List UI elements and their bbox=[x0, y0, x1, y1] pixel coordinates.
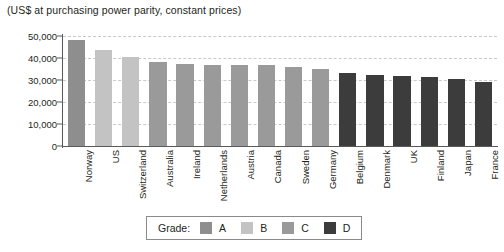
legend-label: A bbox=[219, 222, 226, 234]
legend-label: C bbox=[301, 222, 309, 234]
bar[interactable] bbox=[231, 65, 248, 146]
bar-slot bbox=[307, 36, 334, 146]
legend-entries: ABCD bbox=[200, 222, 350, 234]
bar-series bbox=[63, 36, 497, 146]
bar-slot bbox=[63, 36, 90, 146]
legend-entry-b[interactable]: B bbox=[241, 222, 267, 234]
x-label-slot: US bbox=[90, 149, 117, 207]
chart-legend: Grade: ABCD bbox=[146, 216, 362, 240]
y-axis-tick-label: 20,000 bbox=[28, 97, 57, 108]
x-label-slot: Norway bbox=[63, 149, 90, 207]
chart-figure: (US$ at purchasing power parity, constan… bbox=[0, 0, 504, 252]
bar-slot bbox=[416, 36, 443, 146]
bar-slot bbox=[253, 36, 280, 146]
x-label-slot: Switzerland bbox=[117, 149, 144, 207]
bar[interactable] bbox=[393, 76, 410, 146]
bar-slot bbox=[334, 36, 361, 146]
x-axis-line bbox=[62, 146, 498, 147]
bar-slot bbox=[226, 36, 253, 146]
x-label-slot: UK bbox=[389, 149, 416, 207]
legend-entry-d[interactable]: D bbox=[324, 222, 351, 234]
bar-slot bbox=[280, 36, 307, 146]
x-label-slot: Canada bbox=[253, 149, 280, 207]
legend-swatch-icon bbox=[282, 222, 294, 234]
x-label-slot: Belgium bbox=[334, 149, 361, 207]
bar-slot bbox=[90, 36, 117, 146]
bar-slot bbox=[470, 36, 497, 146]
x-label-slot: Germany bbox=[307, 149, 334, 207]
legend-label: B bbox=[260, 222, 267, 234]
bar[interactable] bbox=[68, 40, 85, 146]
plot-area bbox=[63, 36, 497, 146]
legend-swatch-icon bbox=[241, 222, 253, 234]
y-axis-tick-label: 40,000 bbox=[28, 53, 57, 64]
y-axis-tick-labels: 50,00040,00030,00020,00010,0000 bbox=[0, 36, 57, 146]
bar-slot bbox=[443, 36, 470, 146]
bar[interactable] bbox=[312, 69, 329, 146]
bar[interactable] bbox=[366, 75, 383, 147]
x-label-slot: Australia bbox=[144, 149, 171, 207]
bar[interactable] bbox=[448, 79, 465, 146]
bar[interactable] bbox=[258, 65, 275, 146]
bar[interactable] bbox=[95, 50, 112, 146]
bar[interactable] bbox=[421, 77, 438, 146]
x-label-slot: Ireland bbox=[172, 149, 199, 207]
chart-title: (US$ at purchasing power parity, constan… bbox=[7, 4, 241, 16]
x-label-slot: France bbox=[470, 149, 497, 207]
legend-label: D bbox=[343, 222, 351, 234]
x-label-slot: Netherlands bbox=[199, 149, 226, 207]
y-axis-tick-label: 50,000 bbox=[28, 31, 57, 42]
bar[interactable] bbox=[176, 64, 193, 147]
bar-slot bbox=[199, 36, 226, 146]
bar-slot bbox=[117, 36, 144, 146]
bar[interactable] bbox=[122, 57, 139, 146]
x-label-slot: Finland bbox=[416, 149, 443, 207]
legend-title: Grade: bbox=[158, 222, 190, 234]
x-label-slot: Japan bbox=[443, 149, 470, 207]
y-axis-tick-label: 30,000 bbox=[28, 75, 57, 86]
y-axis-tick-label: 10,000 bbox=[28, 119, 57, 130]
x-axis-category-labels: NorwayUSSwitzerlandAustraliaIrelandNethe… bbox=[63, 149, 497, 207]
x-label-slot: Denmark bbox=[361, 149, 388, 207]
bar-slot bbox=[361, 36, 388, 146]
legend-swatch-icon bbox=[200, 222, 212, 234]
bar[interactable] bbox=[475, 82, 492, 146]
legend-entry-a[interactable]: A bbox=[200, 222, 226, 234]
bar[interactable] bbox=[285, 67, 302, 146]
bar[interactable] bbox=[339, 73, 356, 146]
bar-slot bbox=[389, 36, 416, 146]
x-axis-category-label: France bbox=[489, 150, 500, 180]
bar-slot bbox=[144, 36, 171, 146]
x-label-slot: Austria bbox=[226, 149, 253, 207]
legend-entry-c[interactable]: C bbox=[282, 222, 309, 234]
bar[interactable] bbox=[204, 65, 221, 146]
bar-slot bbox=[172, 36, 199, 146]
legend-swatch-icon bbox=[324, 222, 336, 234]
bar[interactable] bbox=[149, 62, 166, 146]
x-label-slot: Sweden bbox=[280, 149, 307, 207]
